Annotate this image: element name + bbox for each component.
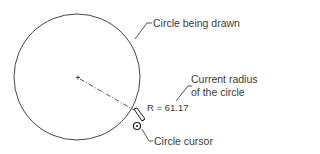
label-circle-cursor: Circle cursor [154, 135, 213, 147]
leader-circle-being-drawn [135, 23, 152, 39]
center-point-icon [76, 76, 80, 80]
label-current-radius-line2: of the circle [191, 86, 245, 98]
label-circle-being-drawn: Circle being drawn [153, 17, 240, 29]
circle-cursor-icon [134, 123, 141, 130]
leader-circle-cursor [142, 129, 153, 141]
radius-value: R = 61.17 [147, 102, 188, 113]
label-current-radius-line1: Current radius [191, 73, 258, 85]
pencil-icon [134, 108, 145, 121]
leader-current-radius [176, 86, 192, 101]
radius-line [80, 79, 134, 110]
